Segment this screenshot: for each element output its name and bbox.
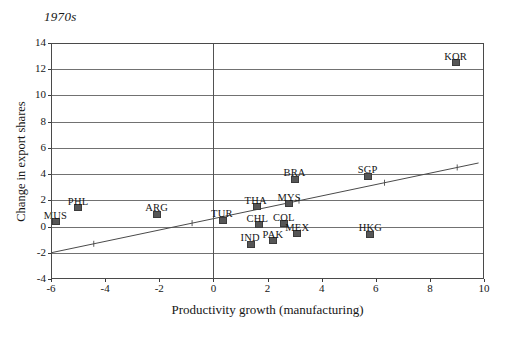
x-tick-mark--6: [51, 279, 52, 282]
data-point-label-mex: MEX: [285, 222, 309, 233]
panel-title: 1970s: [44, 9, 77, 25]
chart-figure: 1970s Change in export shares Productivi…: [0, 0, 506, 337]
x-tick-mark-10: [484, 279, 485, 282]
data-point-label-phl: PHL: [68, 196, 88, 207]
x-tick-label-2: 2: [253, 282, 283, 294]
y-tick-label-10: 10: [18, 88, 46, 100]
x-tick-mark--4: [105, 279, 106, 282]
data-point-label-tha: THA: [245, 195, 267, 206]
data-point-label-arg: ARG: [145, 202, 168, 213]
x-tick-mark-4: [322, 279, 323, 282]
y-tick-label-2: 2: [18, 193, 46, 205]
x-tick-mark-8: [430, 279, 431, 282]
y-tick-label-12: 12: [18, 62, 46, 74]
x-tick-label-10: 10: [469, 282, 499, 294]
x-tick-label-8: 8: [415, 282, 445, 294]
y-tick-label--2: -2: [18, 246, 46, 258]
x-tick-label--4: -4: [90, 282, 120, 294]
x-tick-label--6: -6: [36, 282, 66, 294]
x-tick-mark--2: [159, 279, 160, 282]
x-tick-label--2: -2: [144, 282, 174, 294]
y-tick-label-0: 0: [18, 220, 46, 232]
x-tick-label-0: 0: [198, 282, 228, 294]
x-tick-label-6: 6: [361, 282, 391, 294]
data-point-label-tur: TUR: [211, 208, 233, 219]
x-tick-mark-0: [213, 279, 214, 282]
data-point-label-mys: MYS: [277, 192, 300, 203]
data-point-label-sgp: SGP: [358, 164, 378, 175]
data-point-label-mus: MUS: [44, 210, 67, 221]
data-point-label-kor: KOR: [444, 51, 467, 62]
y-tick-label-4: 4: [18, 167, 46, 179]
plot-area: MUSPHLARGTURTHAMYSCHLCOLINDPAKMEXHKGBRAS…: [51, 43, 484, 279]
x-axis-label: Productivity growth (manufacturing): [51, 302, 484, 318]
data-point-label-ind: IND: [241, 232, 260, 243]
trendline: [51, 43, 484, 279]
x-tick-mark-6: [376, 279, 377, 282]
y-tick-label-14: 14: [18, 36, 46, 48]
data-point-label-pak: PAK: [263, 229, 284, 240]
y-tick-label-6: 6: [18, 141, 46, 153]
y-tick-label-8: 8: [18, 115, 46, 127]
data-point-label-bra: BRA: [283, 167, 305, 178]
x-tick-mark-2: [268, 279, 269, 282]
x-tick-label-4: 4: [307, 282, 337, 294]
data-point-label-chl: CHL: [247, 213, 269, 224]
data-point-label-hkg: HKG: [359, 222, 382, 233]
